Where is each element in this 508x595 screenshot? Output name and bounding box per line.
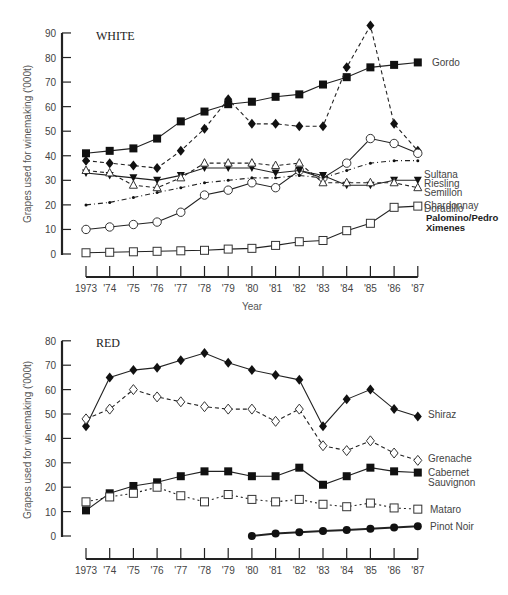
data-point: [224, 186, 232, 194]
data-point: [177, 247, 185, 255]
data-point: [416, 159, 419, 162]
data-point: [414, 149, 422, 157]
wine-grape-charts: WHITE Grapes used for winemaking ('000t)…: [0, 0, 508, 595]
data-point: [295, 528, 303, 536]
x-tick-label: '86: [388, 565, 401, 576]
data-point: [177, 492, 185, 500]
data-point: [201, 467, 209, 475]
data-point: [82, 225, 90, 233]
data-point: [108, 201, 111, 204]
white-y-axis-label: Grapes used for winemaking ('000t): [22, 65, 33, 223]
data-point: [366, 385, 374, 395]
label-cabernet-line2: Sauvignon: [428, 477, 475, 488]
y-tick-label: 0: [50, 531, 56, 542]
y-tick-label: 20: [45, 200, 57, 211]
y-tick-label: 60: [45, 102, 57, 113]
data-point: [201, 402, 209, 412]
data-point: [295, 375, 303, 385]
data-point: [390, 203, 398, 211]
data-point: [224, 358, 232, 368]
data-point: [272, 241, 280, 249]
data-point: [129, 144, 137, 152]
data-point: [272, 119, 280, 129]
y-tick-label: 70: [45, 360, 57, 371]
x-tick-label: '74: [103, 565, 116, 576]
x-tick-label: '79: [222, 565, 235, 576]
data-point: [248, 98, 256, 106]
white-series-group: [82, 21, 422, 257]
data-point: [390, 139, 398, 147]
data-point: [201, 348, 209, 358]
x-tick-label: '83: [316, 565, 329, 576]
y-tick-label: 30: [45, 175, 57, 186]
red-chart-panel: RED Grapes used for winemaking ('000t) 0…: [22, 336, 475, 576]
white-x-axis: 1973'74'75'76'77'78'79'80'81'82'83'84'85…: [75, 266, 425, 294]
data-point: [153, 135, 161, 143]
data-point: [201, 246, 209, 254]
x-tick-label: '84: [340, 565, 353, 576]
data-point: [177, 208, 185, 216]
y-tick-label: 20: [45, 482, 57, 493]
data-point: [106, 147, 114, 155]
data-point: [414, 202, 422, 210]
data-point: [224, 467, 232, 475]
data-point: [390, 523, 398, 531]
y-tick-label: 30: [45, 458, 57, 469]
data-point: [179, 186, 182, 189]
data-point: [319, 81, 327, 89]
data-point: [129, 161, 137, 171]
data-point: [414, 58, 422, 66]
x-tick-label: '85: [364, 565, 377, 576]
red-y-axis-label: Grapes used for winemaking ('000t): [22, 361, 33, 519]
data-point: [390, 178, 398, 186]
data-point: [224, 159, 232, 167]
data-point: [319, 500, 327, 508]
data-point: [366, 21, 374, 31]
data-point: [343, 446, 351, 456]
data-point: [414, 469, 422, 477]
red-series-group: [82, 348, 422, 540]
data-point: [106, 248, 114, 256]
label-gordo: Gordo: [432, 57, 460, 68]
data-point: [272, 416, 280, 426]
data-point: [343, 62, 351, 72]
data-point: [201, 498, 209, 506]
y-tick-label: 10: [45, 507, 57, 518]
label-grenache: Grenache: [428, 453, 472, 464]
data-point: [177, 472, 185, 480]
x-tick-label: '87: [411, 283, 424, 294]
data-point: [82, 249, 90, 257]
data-point: [414, 411, 422, 421]
red-series-labels: Shiraz Grenache Cabernet Sauvignon Matar…: [428, 409, 475, 532]
data-point: [203, 181, 206, 184]
data-point: [129, 482, 137, 490]
data-point: [366, 499, 374, 507]
x-tick-label: 1973: [75, 283, 98, 294]
data-point: [343, 503, 351, 511]
data-point: [248, 244, 256, 252]
data-point: [390, 467, 398, 475]
data-point: [272, 472, 280, 480]
data-point: [106, 372, 114, 382]
data-point: [319, 481, 327, 489]
label-mataro: Mataro: [430, 504, 462, 515]
data-point: [366, 436, 374, 446]
data-point: [248, 119, 256, 129]
data-point: [248, 532, 256, 540]
white-x-axis-label: Year: [242, 301, 263, 312]
white-series-labels: Gordo Sultana Riesling Semillon Doradill…: [424, 57, 499, 233]
data-point: [369, 162, 372, 165]
x-tick-label: '81: [269, 565, 282, 576]
data-point: [345, 169, 348, 172]
data-point: [129, 365, 137, 375]
data-point: [132, 196, 135, 199]
data-point: [106, 493, 114, 501]
data-point: [129, 181, 137, 189]
data-point: [366, 525, 374, 533]
data-point: [248, 404, 256, 414]
label-semillon: Semillon: [424, 187, 462, 198]
data-point: [201, 124, 209, 134]
y-tick-label: 50: [45, 409, 57, 420]
data-point: [366, 464, 374, 472]
data-point: [390, 448, 398, 458]
